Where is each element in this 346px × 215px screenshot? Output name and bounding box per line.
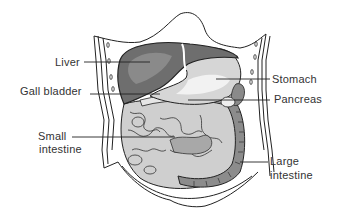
label-liver: Liver [55,56,80,68]
label-gall-bladder: Gall bladder [20,85,82,97]
label-small-intestine-line2: intestine [39,143,82,155]
label-large-intestine-line1: Large [270,155,299,167]
abdomen-diagram [0,0,346,215]
duodenum-shape [221,97,235,107]
label-pancreas: Pancreas [274,93,322,105]
label-large-intestine-line2: intestine [270,169,313,181]
label-small-intestine-line1: Small [38,130,67,142]
label-stomach: Stomach [272,73,317,85]
